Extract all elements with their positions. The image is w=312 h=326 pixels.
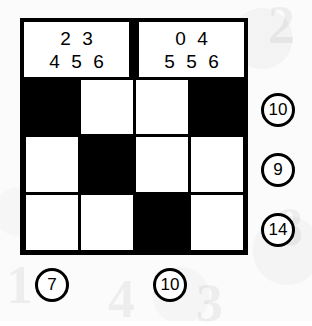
clue-digit: 3 — [77, 29, 99, 48]
clue-digit: 4 — [192, 29, 214, 48]
column-clue-circle-1[interactable]: 7 — [35, 268, 69, 302]
clue-box-right-bottom-line: 5 5 6 — [159, 52, 225, 71]
grid-cell[interactable] — [23, 77, 81, 138]
clue-digit: 4 — [44, 52, 66, 71]
ghost-mark: 2 — [268, 0, 295, 56]
clue-box-left-top-line: 2 3 — [55, 29, 99, 48]
clue-digit: 6 — [88, 52, 110, 71]
grid-cell[interactable] — [78, 192, 136, 253]
clue-header-row: 2 3 4 5 6 0 4 5 5 6 — [24, 22, 244, 78]
column-clue-circle-3[interactable]: 10 — [153, 268, 187, 302]
clue-box-left-bottom-line: 4 5 6 — [44, 52, 110, 71]
clue-digit: 5 — [159, 52, 181, 71]
clue-digit: 0 — [170, 29, 192, 48]
grid-cell[interactable] — [188, 192, 246, 253]
clue-digit: 5 — [181, 52, 203, 71]
clue-digit: 2 — [55, 29, 77, 48]
row-clue-circle-1[interactable]: 10 — [261, 93, 295, 127]
grid-cell[interactable] — [133, 134, 191, 195]
clue-digit: 5 — [66, 52, 88, 71]
grid-cell[interactable] — [23, 134, 81, 195]
grid-cell[interactable] — [78, 77, 136, 138]
grid-cell[interactable] — [133, 77, 191, 138]
puzzle-grid: 2 3 4 5 6 0 4 5 5 6 — [20, 18, 248, 255]
row-clue-circle-3[interactable]: 14 — [261, 213, 295, 247]
grid-cell[interactable] — [23, 192, 81, 253]
grid-cell[interactable] — [78, 134, 136, 195]
grid-cell[interactable] — [188, 134, 246, 195]
ghost-mark: 1 — [6, 254, 33, 316]
grid-cell[interactable] — [188, 77, 246, 138]
ghost-mark: 3 — [196, 272, 223, 326]
row-clue-circle-2[interactable]: 9 — [261, 153, 295, 187]
clue-box-left[interactable]: 2 3 4 5 6 — [24, 22, 129, 78]
clue-digit: 6 — [203, 52, 225, 71]
ghost-mark: 4 — [108, 268, 135, 326]
grid-cell[interactable] — [133, 192, 191, 253]
clue-box-right-top-line: 0 4 — [170, 29, 214, 48]
clue-box-right[interactable]: 0 4 5 5 6 — [139, 22, 244, 78]
cell-grid — [24, 78, 244, 251]
